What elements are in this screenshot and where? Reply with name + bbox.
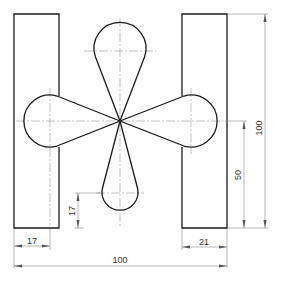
dimension-bottom-petal <box>75 193 104 228</box>
dim-label-bottom-petal: 17 <box>67 206 77 216</box>
dim-label-center-height: 50 <box>233 170 243 180</box>
drawing-canvas: 100 50 17 17 21 100 <box>0 0 283 282</box>
dim-label-overall-height: 100 <box>254 120 264 135</box>
dimension-right-bar-width <box>182 229 227 268</box>
dim-label-left-bar-width: 17 <box>27 236 37 246</box>
dim-label-overall-width: 100 <box>112 255 127 265</box>
dim-label-right-bar-width: 21 <box>199 237 209 247</box>
